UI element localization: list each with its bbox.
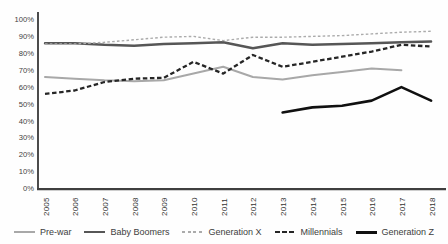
- y-tick-label: 0%: [23, 184, 34, 193]
- y-tick-label: 60%: [19, 83, 34, 92]
- x-tick-label: 2012: [249, 197, 258, 216]
- x-tick-label: 2010: [190, 197, 199, 216]
- chart-svg: 0%10%20%30%40%50%60%70%80%90%100%2005200…: [0, 0, 448, 244]
- x-tick-label: 2013: [279, 197, 288, 216]
- x-tick-label: 2016: [368, 197, 377, 216]
- legend-label-millennials: Millennials: [301, 227, 343, 237]
- legend-swatch-baby-boomers: [84, 231, 105, 233]
- x-tick-label: 2014: [309, 197, 318, 216]
- legend-swatch-generation-x: [182, 231, 203, 233]
- legend-label-baby-boomers: Baby Boomers: [110, 227, 169, 237]
- y-tick-label: 30%: [19, 133, 34, 142]
- y-tick-label: 20%: [19, 150, 34, 159]
- y-tick-label: 80%: [19, 49, 34, 58]
- x-tick-label: 2015: [339, 197, 348, 216]
- y-tick-label: 50%: [19, 100, 34, 109]
- x-tick-label: 2005: [42, 197, 51, 216]
- y-tick-label: 70%: [19, 66, 34, 75]
- legend-label-generation-x: Generation X: [208, 227, 261, 237]
- legend-item-generation-x: Generation X: [182, 227, 261, 237]
- x-tick-label: 2018: [428, 197, 437, 216]
- x-tick-label: 2006: [71, 197, 80, 216]
- legend-label-generation-z: Generation Z: [382, 227, 435, 237]
- x-tick-label: 2007: [101, 197, 110, 216]
- y-tick-label: 40%: [19, 117, 34, 126]
- y-tick-label: 100%: [15, 15, 35, 24]
- chart-legend: Pre-war Baby Boomers Generation X Millen…: [0, 227, 448, 237]
- x-tick-label: 2017: [398, 197, 407, 216]
- y-tick-label: 90%: [19, 32, 34, 41]
- legend-item-pre-war: Pre-war: [14, 227, 72, 237]
- x-tick-label: 2011: [220, 198, 229, 216]
- legend-item-baby-boomers: Baby Boomers: [84, 227, 169, 237]
- legend-swatch-pre-war: [14, 231, 35, 233]
- line-chart: 0%10%20%30%40%50%60%70%80%90%100%2005200…: [0, 0, 448, 244]
- legend-swatch-generation-z: [356, 231, 377, 234]
- x-tick-label: 2009: [160, 197, 169, 216]
- y-tick-label: 10%: [19, 167, 34, 176]
- legend-label-pre-war: Pre-war: [40, 227, 72, 237]
- legend-item-millennials: Millennials: [275, 227, 343, 237]
- series-line-generation-z: [283, 87, 432, 112]
- x-tick-label: 2008: [131, 197, 140, 216]
- legend-swatch-millennials: [275, 231, 296, 233]
- legend-item-generation-z: Generation Z: [356, 227, 435, 237]
